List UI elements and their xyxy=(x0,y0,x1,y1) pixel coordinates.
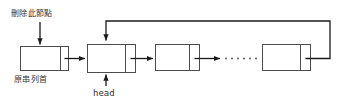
node-2 xyxy=(88,45,136,73)
node-last-data-field xyxy=(263,45,301,71)
node-3-pointer-field xyxy=(190,45,200,71)
diagram-canvas xyxy=(0,0,344,105)
node-last-pointer-field xyxy=(301,45,311,71)
node-2-data-field xyxy=(88,45,126,73)
node-last xyxy=(263,45,311,71)
node-1 xyxy=(21,47,69,71)
node-3-data-field xyxy=(156,45,190,71)
linked-list-diagram: 刪除此節點 原串列首 head xyxy=(0,0,344,105)
node-1-data-field xyxy=(21,47,61,71)
ellipsis-dots xyxy=(225,58,257,60)
node-3 xyxy=(156,45,200,71)
